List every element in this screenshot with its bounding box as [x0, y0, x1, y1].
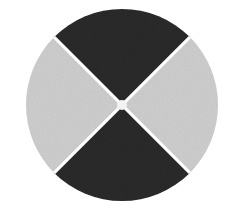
disc-svg: [0, 0, 238, 208]
image-canvas: [0, 0, 238, 208]
disc-figure: [0, 0, 238, 208]
center-hub: [117, 100, 127, 110]
